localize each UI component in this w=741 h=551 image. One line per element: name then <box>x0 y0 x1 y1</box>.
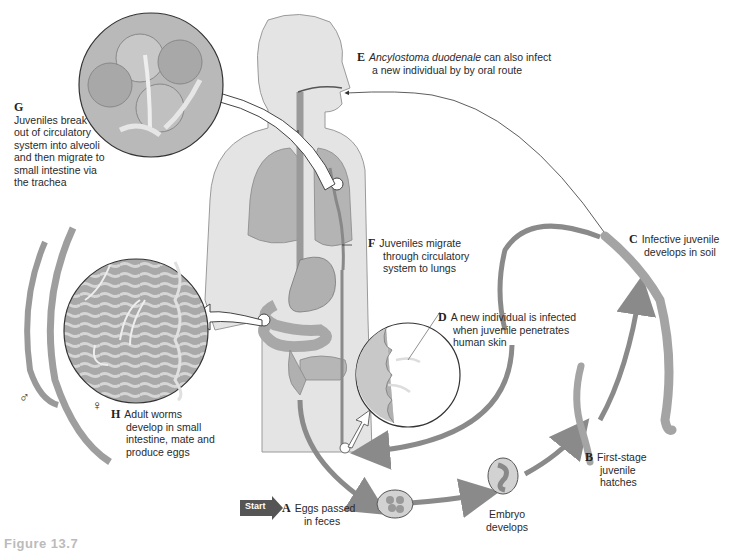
infective-juvenile-worm <box>605 236 672 430</box>
label-a: AEggs passed in feces <box>282 502 355 527</box>
arrow-oral-route <box>346 92 604 232</box>
label-h: HAdult worms develop in small intestine,… <box>111 408 215 458</box>
first-stage-juvenile-worm <box>577 366 590 462</box>
figure-caption: Figure 13.7 <box>4 536 78 551</box>
human-body <box>205 14 372 453</box>
intestine-inset-h <box>64 259 208 403</box>
female-symbol: ♀ <box>92 399 103 412</box>
arrow-eggs-to-embryo <box>410 494 485 503</box>
arrow-embryo-to-juvenile <box>525 430 580 474</box>
arrow-b-to-c <box>600 290 640 420</box>
label-c: CInfective juvenile develops in soil <box>629 233 719 258</box>
male-symbol: ♂ <box>19 391 30 404</box>
label-e: EAncylostoma duodenale can also infect a… <box>357 51 551 76</box>
label-f: FJuveniles migrate through circulatory s… <box>368 237 469 275</box>
start-label: Start <box>245 501 266 511</box>
label-embryo: Embryo develops <box>485 508 529 533</box>
label-b: BFirst-stage juvenile hatches <box>585 451 647 489</box>
label-g: G Juveniles break out of circulatory sys… <box>14 101 104 189</box>
egg-cell <box>377 490 413 518</box>
label-d: DA new individual is infected when juven… <box>438 311 576 349</box>
